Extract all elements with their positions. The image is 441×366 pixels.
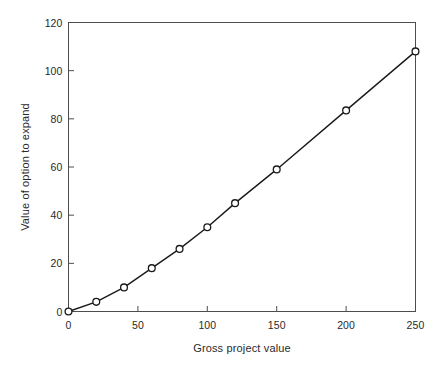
data-point-marker: [176, 245, 183, 252]
y-tick-label: 0: [57, 306, 63, 318]
data-point-marker: [232, 200, 239, 207]
y-tick-label: 80: [51, 113, 63, 125]
chart-figure: 050100150200250020406080100120Gross proj…: [0, 0, 441, 366]
data-point-marker: [93, 298, 100, 305]
y-tick-label: 20: [51, 257, 63, 269]
y-axis-label: Value of option to expand: [19, 103, 31, 231]
data-point-marker: [148, 265, 155, 272]
x-axis-label: Gross project value: [193, 342, 291, 354]
data-point-marker: [121, 284, 128, 291]
x-tick-label: 100: [198, 319, 216, 331]
data-point-marker: [343, 107, 350, 114]
plot-frame: [69, 23, 416, 312]
y-tick-label: 40: [51, 209, 63, 221]
x-tick-label: 0: [66, 319, 72, 331]
x-tick-label: 250: [407, 319, 425, 331]
y-tick-label: 100: [45, 65, 63, 77]
x-tick-label: 150: [268, 319, 286, 331]
data-point-marker: [65, 308, 72, 315]
chart-plot-area: [0, 0, 441, 366]
data-point-marker: [204, 224, 211, 231]
x-tick-label: 50: [132, 319, 144, 331]
data-point-marker: [412, 48, 419, 55]
y-tick-label: 120: [45, 17, 63, 29]
data-point-marker: [273, 166, 280, 173]
y-tick-label: 60: [51, 161, 63, 173]
x-tick-label: 200: [337, 319, 355, 331]
data-series-line: [69, 51, 416, 311]
